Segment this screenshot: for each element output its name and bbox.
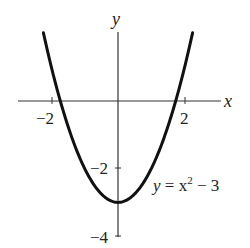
y-axis-label: y (110, 9, 120, 29)
equation-label: y = x2 − 3 (151, 174, 219, 195)
parabola-plot: y x −2 2 −2 −4 y = x2 − 3 (0, 0, 250, 248)
x-tick-label-2: 2 (180, 109, 189, 128)
y-tick-label-neg4: −4 (90, 228, 109, 247)
x-axis-label: x (223, 91, 232, 111)
x-tick-label-neg2: −2 (36, 109, 54, 128)
y-tick-label-neg2: −2 (90, 159, 108, 178)
